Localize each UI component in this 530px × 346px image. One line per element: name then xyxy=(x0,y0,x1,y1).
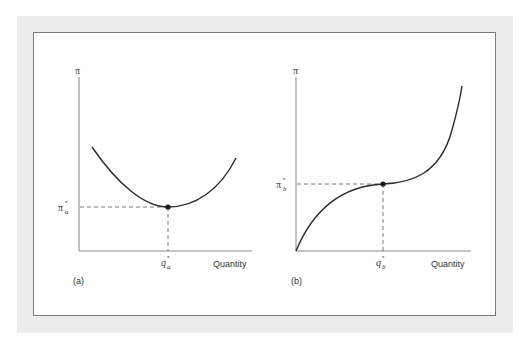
panel-a-label: (a) xyxy=(73,276,84,286)
panel-a: π π a * q a * Quantity (a) xyxy=(58,65,252,286)
svg-text:q: q xyxy=(376,257,381,268)
svg-text:*: * xyxy=(382,255,385,261)
panel-b-y-axis-label: π xyxy=(293,65,298,76)
panel-b-curve xyxy=(296,86,462,251)
svg-text:*: * xyxy=(283,177,286,183)
panel-b-x-axis-label: Quantity xyxy=(431,259,465,269)
svg-text:a: a xyxy=(65,208,69,216)
svg-text:π: π xyxy=(276,179,281,190)
svg-text:π: π xyxy=(58,202,63,213)
svg-text:a: a xyxy=(167,263,171,271)
panel-b-label: (b) xyxy=(291,276,302,286)
panel-b-optimum-point xyxy=(380,181,385,186)
figure-svg: π π a * q a * Quantity (a) π π xyxy=(0,0,530,346)
panel-a-optimum-point xyxy=(165,204,170,209)
panel-a-curve xyxy=(92,147,236,207)
svg-text:b: b xyxy=(382,263,386,271)
panel-b-pi-star-label: π b * xyxy=(276,177,287,193)
svg-text:*: * xyxy=(167,255,170,261)
svg-text:b: b xyxy=(283,185,287,193)
panel-a-y-axis-label: π xyxy=(75,65,80,76)
panel-a-x-axis-label: Quantity xyxy=(213,259,247,269)
panel-b-q-star-label: q b * xyxy=(376,255,386,271)
svg-text:q: q xyxy=(161,257,166,268)
svg-text:*: * xyxy=(65,200,68,206)
panel-a-pi-star-label: π a * xyxy=(58,200,69,216)
panel-b: π π b * q b * Quantity (b) xyxy=(276,65,471,286)
panel-a-q-star-label: q a * xyxy=(161,255,171,271)
